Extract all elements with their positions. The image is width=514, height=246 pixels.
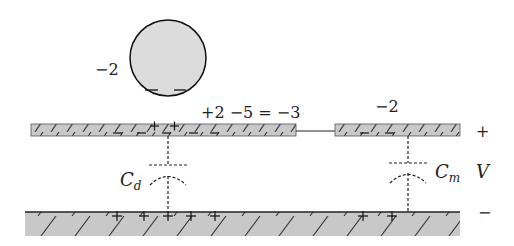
sphere-charge-label: −2: [95, 60, 119, 79]
sphere: [130, 20, 206, 96]
right-plate-charge-label: −2: [375, 97, 399, 116]
capacitor-cd: [149, 136, 187, 212]
ground-plate: [25, 211, 460, 236]
charge-capacitor-diagram: −2 +2 −5 = −3 −2: [0, 0, 514, 246]
diagram-svg: −2 +2 −5 = −3 −2: [0, 0, 514, 246]
cm-label: Cm: [435, 161, 460, 185]
left-plate-charge-label: +2 −5 = −3: [201, 103, 300, 122]
capacitor-cm: [389, 136, 427, 212]
cd-label: Cd: [120, 169, 142, 193]
voltage-minus-label: −: [478, 203, 491, 222]
left-plate: [31, 122, 296, 137]
voltage-label: V: [476, 161, 491, 182]
right-plate: [335, 124, 460, 136]
voltage-plus-label: +: [476, 122, 489, 141]
